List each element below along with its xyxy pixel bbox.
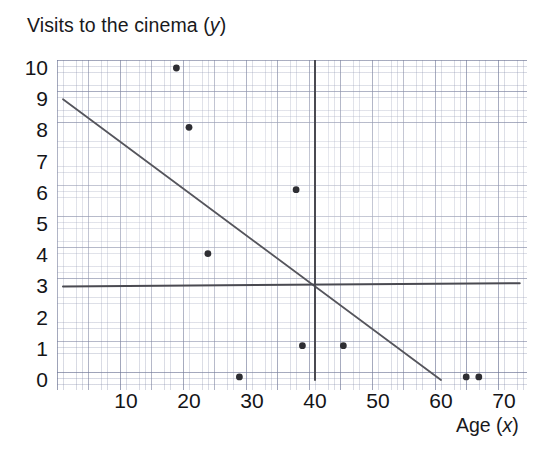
data-point: [299, 342, 306, 349]
x-tick-70: 70: [481, 390, 527, 411]
y-tick-2: 2: [8, 307, 48, 328]
y-tick-4: 4: [8, 244, 48, 265]
y-tick-3: 3: [8, 275, 48, 296]
x-axis-variable: x: [503, 414, 513, 436]
scatter-plot-figure: Visits to the cinema (y) Age (x) 1098765…: [0, 0, 549, 467]
y-tick-1: 1: [8, 338, 48, 359]
x-tick-50: 50: [355, 390, 401, 411]
data-point: [340, 342, 347, 349]
x-axis-title-text: Age (: [456, 414, 503, 436]
y-axis-title-tail: ): [220, 14, 227, 36]
x-axis-title: Age (x): [456, 414, 519, 437]
y-axis-title-text: Visits to the cinema (: [27, 14, 210, 36]
y-axis-title: Visits to the cinema (y): [27, 14, 226, 37]
y-tick-5: 5: [8, 213, 48, 234]
x-tick-20: 20: [166, 390, 212, 411]
x-axis-title-tail: ): [512, 414, 519, 436]
data-point: [173, 65, 180, 72]
y-tick-7: 7: [8, 151, 48, 172]
mean-y-line: [63, 283, 520, 286]
y-axis-variable: y: [210, 14, 220, 36]
y-tick-6: 6: [8, 182, 48, 203]
data-point: [205, 250, 212, 257]
data-point: [236, 373, 243, 380]
y-tick-0: 0: [8, 369, 48, 390]
plot-area: [57, 60, 527, 390]
data-point: [475, 373, 482, 380]
x-tick-40: 40: [292, 390, 338, 411]
line-of-best-fit: [63, 99, 441, 380]
x-tick-60: 60: [418, 390, 464, 411]
y-tick-8: 8: [8, 119, 48, 140]
x-tick-10: 10: [103, 390, 149, 411]
y-tick-10: 10: [8, 57, 48, 78]
y-tick-9: 9: [8, 88, 48, 109]
plot-svg: [57, 60, 527, 390]
x-tick-30: 30: [229, 390, 275, 411]
data-point: [463, 373, 470, 380]
data-point: [186, 124, 193, 131]
data-point: [293, 186, 300, 193]
